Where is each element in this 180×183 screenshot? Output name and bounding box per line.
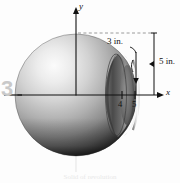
tick-label-5: 5	[132, 100, 136, 109]
tick-label-4: 4	[118, 100, 122, 109]
dimension-label-hole-radius: 3 in.	[107, 37, 123, 46]
dimension-label-sphere-radius: 5 in.	[159, 57, 175, 66]
x-axis-label: x	[166, 88, 170, 97]
dim-5in-bracket	[149, 33, 157, 95]
sphere-with-hole-figure	[0, 0, 180, 183]
figure-caption: Solid of revolution	[0, 173, 180, 181]
y-axis-label: y	[79, 2, 83, 11]
x-axis-arrow	[157, 92, 164, 98]
page-watermark: 3	[1, 78, 13, 100]
